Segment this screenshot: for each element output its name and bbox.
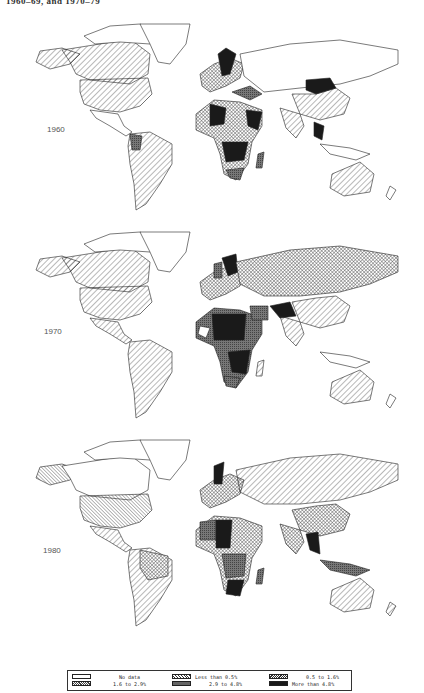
world-map-1970 [0,222,424,422]
map-1970: 1970 [0,222,424,422]
map-1960: 1960 [0,14,424,214]
legend-label: More than 4.8% [292,681,334,687]
map-legend: No data Less than 0.5% 0.5 to 1.6% 1.6 t… [67,670,352,691]
legend-label: 0.5 to 1.6% [306,674,339,680]
figure-caption: 1960–69, and 1970–79 [6,0,100,6]
legend-item-0-5-to-1-6: 0.5 to 1.6% [269,674,339,679]
swatch-blank-icon [72,674,91,679]
year-label-1970: 1970 [44,327,62,336]
legend-label: 1.6 to 2.9% [113,681,146,687]
year-label-1980: 1980 [43,546,61,555]
legend-item-more-than-4-8: More than 4.8% [269,681,334,686]
legend-label: No data [119,674,140,680]
legend-item-no-data: No data [72,674,140,679]
legend-item-2-9-to-4-8: 2.9 to 4.8% [172,681,242,686]
legend-item-1-6-to-2-9: 1.6 to 2.9% [72,681,146,686]
swatch-diagonal-fine-icon [269,674,288,679]
year-label-1960: 1960 [47,125,65,134]
legend-label: Less than 0.5% [195,674,237,680]
swatch-crosshatch-icon [72,681,91,686]
map-1980: 1980 [0,430,424,630]
world-map-1980 [0,430,424,630]
legend-item-less-than-0-5: Less than 0.5% [172,674,237,679]
swatch-dense-gray-icon [172,681,191,686]
world-map-1960 [0,14,424,214]
legend-label: 2.9 to 4.8% [209,681,242,687]
swatch-solid-black-icon [269,681,288,686]
swatch-diagonal-wide-icon [172,674,191,679]
